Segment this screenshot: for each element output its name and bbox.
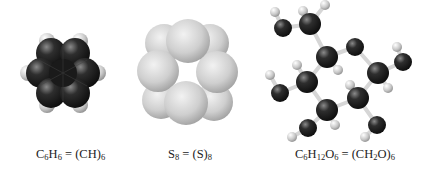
s8-model bbox=[137, 19, 238, 125]
benzene-model bbox=[20, 33, 106, 113]
s8-label: S8 = (S)8 bbox=[168, 147, 212, 162]
carbon-ring bbox=[26, 38, 100, 108]
heavy-atoms bbox=[271, 13, 412, 137]
glucose-label: C6H12O6 = (CH2O)6 bbox=[295, 147, 395, 162]
glucose-model bbox=[265, 0, 412, 142]
benzene-label: C6H6 = (CH)6 bbox=[36, 147, 105, 162]
